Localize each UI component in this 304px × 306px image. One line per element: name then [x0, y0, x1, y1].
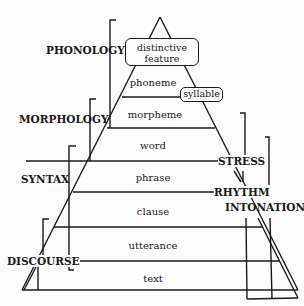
level-morpheme: morpheme — [128, 109, 182, 120]
stress-bracket — [240, 113, 245, 155]
right-base-extension — [247, 298, 298, 299]
phonology-bracket — [110, 20, 116, 128]
level-word: word — [140, 140, 166, 151]
linguistic-levels-pyramid-diagram: distinctive feature syllable phoneme mor… — [0, 0, 304, 306]
syntax-bracket — [69, 146, 76, 270]
intonation-line-right — [270, 218, 272, 299]
level-utterance: utterance — [128, 240, 177, 251]
distinctive-feature-box: distinctive feature — [125, 38, 199, 66]
feature-box-line2: feature — [126, 53, 198, 64]
morphology-bracket — [90, 99, 96, 161]
prosody-rhythm: RHYTHM — [214, 186, 270, 198]
syllable-label: syllable — [183, 88, 220, 99]
level-clause: clause — [137, 206, 169, 217]
level-text: text — [143, 273, 163, 284]
intonation-line-left — [246, 218, 247, 299]
domain-phonology: PHONOLOGY — [46, 44, 125, 56]
rhythm-bracket — [265, 137, 269, 185]
prosody-intonation: INTONATION — [225, 201, 304, 213]
domain-morphology: MORPHOLOGY — [19, 113, 108, 125]
level-phrase: phrase — [136, 172, 171, 183]
level-phoneme: phoneme — [130, 77, 177, 88]
intonation-diagonal — [258, 218, 298, 298]
prosody-stress: STRESS — [218, 155, 265, 167]
domain-syntax: SYNTAX — [21, 173, 69, 185]
feature-box-line1: distinctive — [126, 42, 198, 53]
syllable-box: syllable — [180, 87, 223, 102]
discourse-left-foot — [24, 267, 36, 290]
domain-discourse: DISCOURSE — [7, 255, 80, 267]
